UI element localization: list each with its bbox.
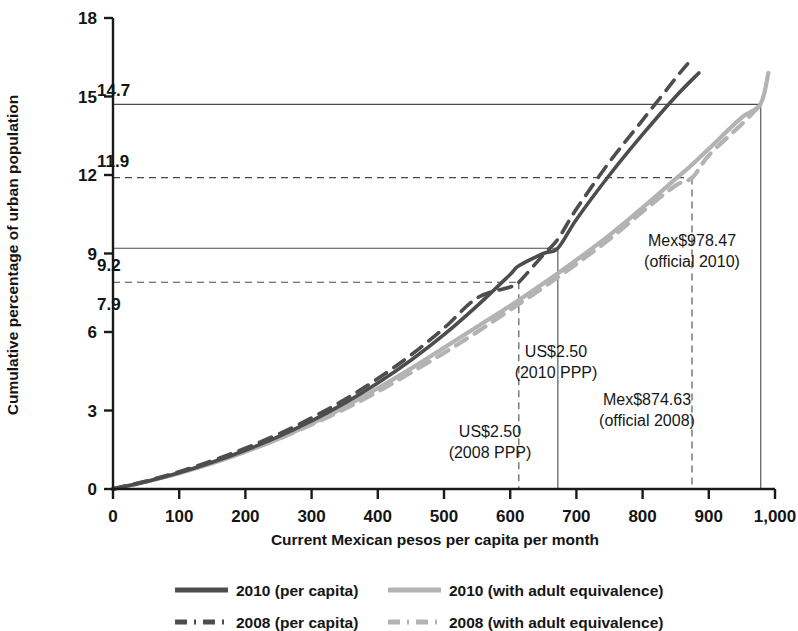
callout-mex874-line1: Mex$874.63 xyxy=(603,391,691,408)
y-tick-label-6: 6 xyxy=(88,323,97,342)
y-tick-label-0: 0 xyxy=(88,480,97,499)
legend-label-2008-adult-equivalence: 2008 (with adult equivalence) xyxy=(449,614,663,631)
y-tick-label-3: 3 xyxy=(88,402,97,421)
x-tick-label-200: 200 xyxy=(231,507,259,526)
y-tick-label-12: 12 xyxy=(78,166,97,185)
cumulative-distribution-chart: Cumulative percentage of urban populatio… xyxy=(0,0,798,631)
legend-label-2008-per-capita: 2008 (per capita) xyxy=(236,614,358,631)
legend: 2010 (per capita) 2010 (with adult equiv… xyxy=(175,582,663,631)
x-tick-label-100: 100 xyxy=(165,507,193,526)
x-tick-label-600: 600 xyxy=(496,507,524,526)
x-tick-label-0: 0 xyxy=(108,507,117,526)
x-tick-label-300: 300 xyxy=(297,507,325,526)
gridline-value-14-7: 14.7 xyxy=(97,81,130,100)
x-tick-label-1000: 1,000 xyxy=(754,507,797,526)
x-tick-label-800: 800 xyxy=(628,507,656,526)
callout-ppp2010-line1: US$2.50 xyxy=(525,343,587,360)
y-tick-label-15: 15 xyxy=(78,88,97,107)
callout-ppp-2010: US$2.50 (2010 PPP) xyxy=(515,343,598,381)
series-line-2008-with-adult-equivalence xyxy=(113,107,758,489)
callout-mex874-line2: (official 2008) xyxy=(599,412,695,429)
x-axis-title-text: Current Mexican pesos per capita per mon… xyxy=(271,531,599,548)
x-axis-title: Current Mexican pesos per capita per mon… xyxy=(271,531,599,548)
callout-mex978-line2: (official 2010) xyxy=(644,253,740,270)
x-tick-label-500: 500 xyxy=(430,507,458,526)
callout-ppp2010-line2: (2010 PPP) xyxy=(515,364,598,381)
chart-figure: Cumulative percentage of urban populatio… xyxy=(0,0,798,631)
reference-lines-layer xyxy=(113,104,761,489)
callout-ppp2008-line1: US$2.50 xyxy=(459,423,521,440)
x-tick-label-700: 700 xyxy=(562,507,590,526)
gridline-value-9-2: 9.2 xyxy=(97,256,121,275)
y-axis-title-text: Cumulative percentage of urban populatio… xyxy=(4,95,21,415)
callout-ppp2008-line2: (2008 PPP) xyxy=(449,444,532,461)
y-tick-label-18: 18 xyxy=(78,9,97,28)
x-tick-label-400: 400 xyxy=(364,507,392,526)
gridline-value-7-9: 7.9 xyxy=(97,295,121,314)
gridline-value-11-9: 11.9 xyxy=(97,152,129,171)
legend-label-2010-per-capita: 2010 (per capita) xyxy=(236,582,358,599)
callout-mex978-line1: Mex$978.47 xyxy=(648,232,736,249)
legend-label-2010-adult-equivalence: 2010 (with adult equivalence) xyxy=(449,582,663,599)
y-axis-title: Cumulative percentage of urban populatio… xyxy=(4,95,21,415)
callout-mex874: Mex$874.63 (official 2008) xyxy=(599,391,695,429)
y-tick-label-9: 9 xyxy=(88,245,97,264)
x-tick-label-900: 900 xyxy=(695,507,723,526)
